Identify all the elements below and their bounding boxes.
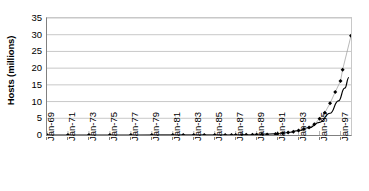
y-axis-tick-label: 10 [31, 97, 42, 107]
x-axis-tick-label: Jan-81 [172, 112, 182, 141]
data-point-marker [229, 133, 233, 135]
x-axis-tick-label: Jan-89 [256, 112, 266, 141]
x-axis-tick-label: Jan-85 [214, 112, 224, 141]
x-axis-tick-label: Jan-87 [235, 112, 245, 141]
y-axis-tick-label: 35 [31, 13, 42, 23]
x-axis-tick-label: Jan-93 [298, 112, 308, 141]
data-point-marker [291, 130, 295, 134]
y-axis-tick-label: 0 [37, 130, 42, 140]
data-point-marker [333, 90, 337, 94]
x-axis-tick-label: Jan-97 [340, 112, 350, 141]
x-axis-tick-label: Jan-91 [277, 112, 287, 141]
x-axis-tick-label: Jan-83 [193, 112, 203, 141]
y-axis-title: Hosts (millions) [0, 0, 22, 140]
y-axis-tick-label: 20 [31, 63, 42, 73]
x-axis-tick-label: Jan-77 [130, 112, 140, 141]
y-axis-title-label: Hosts (millions) [6, 35, 17, 105]
y-axis-tick-label: 5 [37, 114, 42, 124]
y-axis-tick-label: 25 [31, 47, 42, 57]
x-axis-tick-label: Jan-69 [46, 112, 56, 141]
y-axis-tick-label: 30 [31, 30, 42, 40]
horizontal-gridlines [47, 18, 351, 118]
chart-screenshot: Hosts (millions) 05101520253035 Jan-69Ja… [0, 0, 369, 191]
y-axis-tick-labels: 05101520253035 [22, 0, 44, 191]
x-axis-tick-label: Jan-71 [67, 112, 77, 141]
data-point-marker [339, 79, 343, 83]
x-axis-tick-label: Jan-79 [151, 112, 161, 141]
y-axis-tick-label: 15 [31, 80, 42, 90]
x-axis-tick-labels: Jan-69Jan-71Jan-73Jan-75Jan-77Jan-79Jan-… [46, 137, 352, 191]
x-axis-tick-label: Jan-73 [88, 112, 98, 141]
x-axis-tick-label: Jan-95 [319, 112, 329, 141]
x-axis-tick-label: Jan-75 [109, 112, 119, 141]
